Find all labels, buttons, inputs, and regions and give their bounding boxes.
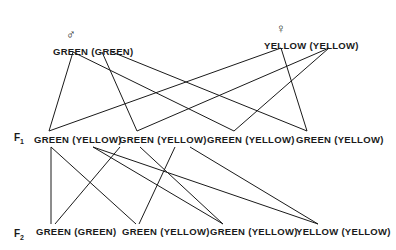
male-parent-label: GREEN (GREEN) <box>53 46 133 57</box>
f2-offspring-2: GREEN (YELLOW) <box>122 226 210 237</box>
phenotype: GREEN <box>53 46 88 57</box>
f2-offspring-1: GREEN (GREEN) <box>36 226 116 237</box>
genotype: (YELLOW) <box>309 40 358 51</box>
f2-generation-label: F2 <box>14 228 24 241</box>
male-symbol-icon: ♂ <box>66 28 76 41</box>
f1-generation-label: F1 <box>14 132 24 145</box>
f1-offspring-1: GREEN (YELLOW) <box>34 134 122 145</box>
f1-offspring-2: GREEN (YELLOW) <box>119 134 207 145</box>
f1-offspring-4: GREEN (YELLOW) <box>296 134 384 145</box>
f2-offspring-3: GREEN (YELLOW) <box>210 226 298 237</box>
female-parent-label: YELLOW (YELLOW) <box>264 40 359 51</box>
phenotype: YELLOW <box>264 40 306 51</box>
female-symbol-icon: ♀ <box>276 22 286 35</box>
inheritance-lines <box>0 0 396 250</box>
genotype: (GREEN) <box>91 46 133 57</box>
f2-offspring-4: YELLOW (YELLOW) <box>296 226 391 237</box>
f1-offspring-3: GREEN (YELLOW) <box>207 134 295 145</box>
